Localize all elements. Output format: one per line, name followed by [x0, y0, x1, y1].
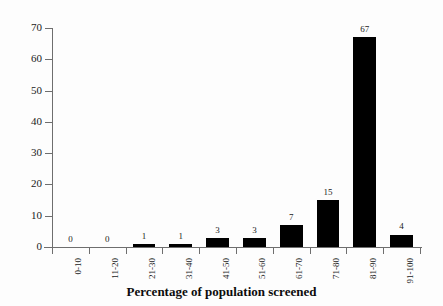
bar [317, 200, 340, 247]
bar-value-label: 67 [346, 25, 383, 34]
bar [243, 238, 266, 247]
y-tick-mark [45, 59, 52, 60]
y-tick-mark [45, 247, 52, 248]
y-tick-mark [45, 122, 52, 123]
bar-value-label: 4 [383, 222, 420, 231]
x-tick-mark [199, 248, 200, 254]
x-tick-mark [383, 248, 384, 254]
x-tick-mark [346, 248, 347, 254]
y-tick-mark [45, 216, 52, 217]
bar [280, 225, 303, 247]
y-tick-mark [45, 91, 52, 92]
y-tick-label: 20 [20, 178, 42, 189]
y-tick-mark [45, 153, 52, 154]
bar [133, 244, 156, 247]
x-tick-mark [236, 248, 237, 254]
y-tick-label: 0 [20, 241, 42, 252]
x-axis-line [44, 247, 422, 248]
plot-area [52, 28, 420, 247]
bar [169, 244, 192, 247]
x-tick-mark [310, 248, 311, 254]
bar [206, 238, 229, 247]
x-tick-mark [273, 248, 274, 254]
y-tick-label: 10 [20, 210, 42, 221]
x-category-label: 91-100 [406, 258, 415, 284]
y-tick-label: 50 [20, 85, 42, 96]
bar-chart: 010203040506070 001133715674 0-1011-2021… [0, 0, 443, 306]
y-tick-label: 30 [20, 147, 42, 158]
bar-value-label: 1 [162, 232, 199, 241]
x-category-label: 0-10 [74, 258, 83, 275]
y-tick-label: 40 [20, 116, 42, 127]
bar-value-label: 0 [52, 235, 89, 244]
x-category-label: 61-70 [295, 258, 304, 279]
x-category-label: 21-30 [148, 258, 157, 279]
y-tick-mark [45, 28, 52, 29]
x-tick-mark [126, 248, 127, 254]
x-category-label: 31-40 [185, 258, 194, 279]
bar-value-label: 0 [89, 235, 126, 244]
x-category-label: 81-90 [369, 258, 378, 279]
bar-value-label: 3 [199, 226, 236, 235]
x-category-label: 41-50 [222, 258, 231, 279]
x-tick-mark [89, 248, 90, 254]
x-tick-mark [420, 248, 421, 254]
bar-value-label: 3 [236, 226, 273, 235]
y-tick-label: 60 [20, 53, 42, 64]
x-category-label: 51-60 [258, 258, 267, 279]
x-tick-mark [52, 248, 53, 254]
x-category-label: 71-80 [332, 258, 341, 279]
bar-value-label: 15 [310, 188, 347, 197]
bar [390, 235, 413, 248]
x-category-label: 11-20 [111, 258, 120, 279]
y-tick-mark [45, 184, 52, 185]
x-tick-mark [162, 248, 163, 254]
bar [353, 37, 376, 247]
y-tick-label: 70 [20, 22, 42, 33]
bar-value-label: 1 [126, 232, 163, 241]
bar-value-label: 7 [273, 213, 310, 222]
x-axis-title: Percentage of population screened [0, 284, 443, 300]
